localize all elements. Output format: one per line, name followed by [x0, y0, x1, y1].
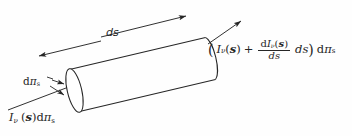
outgoing-subscript: s	[332, 47, 336, 54]
outgoing-open-paren: (	[208, 43, 213, 57]
label-cross-section: dπs	[23, 76, 40, 88]
cross-section-subscript: s	[37, 80, 40, 88]
cross-section-d: d	[23, 75, 30, 87]
incoming-ray-line	[8, 88, 66, 110]
cross-section-leader-upper	[52, 80, 64, 84]
radiative-transfer-diagram: ds dπs Iν(s)dπs (Iν(s)+ dIν(s) ds ds)dπs	[0, 0, 352, 136]
outgoing-close-paren: )	[308, 43, 313, 57]
numerator-arg-close: )	[284, 38, 288, 49]
outgoing-plus-sign: +	[244, 44, 254, 56]
outgoing-ds: ds	[295, 44, 308, 56]
outgoing-pi-icon: π	[324, 44, 332, 56]
derivative-numerator: dIν(s)	[258, 39, 290, 50]
cylinder-bottom-edge	[80, 80, 216, 112]
cross-section-pi-icon: π	[30, 75, 37, 87]
label-ds: ds	[106, 27, 119, 38]
incoming-d: d	[36, 110, 43, 124]
cylinder-shape	[62, 38, 217, 114]
derivative-denominator: ds	[267, 51, 283, 62]
label-outgoing-intensity: (Iν(s)+ dIν(s) ds ds)dπs	[208, 39, 335, 61]
ds-arrow-left	[39, 41, 101, 56]
cross-section-leader-tick	[47, 77, 53, 79]
cylinder-left-end-cap	[62, 67, 86, 114]
incoming-nu: ν	[14, 116, 18, 125]
incoming-ray	[8, 88, 66, 110]
derivative-fraction: dIν(s) ds	[258, 39, 290, 61]
label-incoming-intensity: Iν(s)dπs	[9, 112, 55, 124]
incoming-subscript: s	[51, 116, 55, 125]
label-ds-text: ds	[106, 26, 119, 39]
outgoing-arg-close: )	[236, 44, 241, 56]
cylinder-top-edge	[70, 38, 206, 70]
